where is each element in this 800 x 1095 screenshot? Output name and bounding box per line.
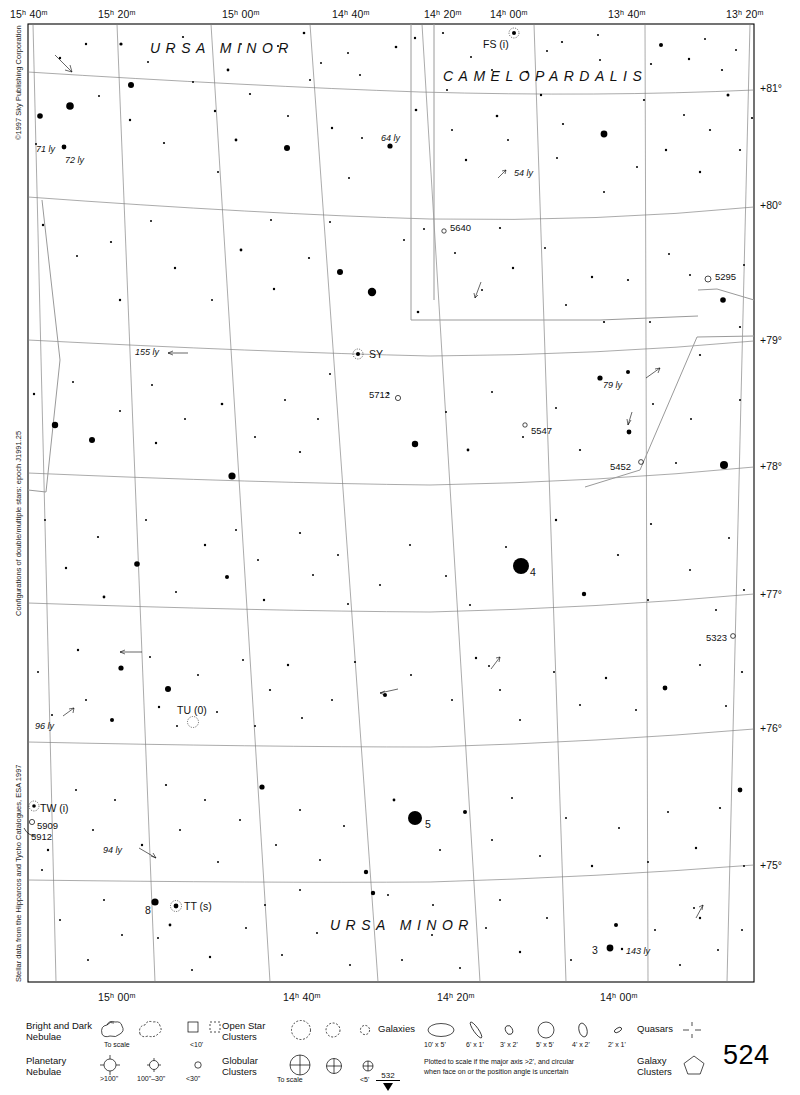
galaxy-4x2-icon [574,1020,592,1040]
double-star-note: Configurations of double/multiple stars:… [14,431,23,616]
legend-globular-clusters-label: Globular Clusters [222,1055,258,1077]
label-flamsteed-5: 5 [425,818,431,830]
label-flamsteed-3: 3 [592,944,598,956]
label-ngc-5712: 5712 [369,389,390,400]
galaxy-size-4x2: 4' x 2' [572,1041,590,1048]
ra-tick-top-2: 15ʰ 00ᵐ [222,8,260,20]
label-ngc-5452: 5452 [610,461,631,472]
bright-dark-nebulae-to-scale-note: To scale [104,1041,130,1048]
copyright-notice: ©1997 Sky Publishing Corporation [14,25,23,140]
label-tu: TU (0) [177,704,207,716]
galaxy-scale-note: Plotted to scale if the major axis >2', … [424,1057,574,1077]
label-ngc-5909: 5909 [37,820,58,831]
galaxy-6x1-icon [466,1018,486,1042]
galaxy-2x1-icon [610,1022,626,1038]
label-tw: TW (i) [40,802,69,814]
dec-tick-78: +78° [760,460,782,472]
ra-tick-bottom-2: 14ʰ 20ᵐ [437,991,475,1003]
galaxy-cluster-icon [682,1054,706,1076]
dec-tick-75: +75° [760,859,782,871]
globular-cluster-medium-icon [322,1055,346,1077]
label-79ly: 79 ly [603,380,622,390]
planetary-nebula-large-icon [98,1054,122,1076]
galaxy-3x2-icon [500,1022,518,1038]
label-155ly: 155 ly [135,347,159,357]
label-96ly: 96 ly [35,721,54,731]
open-cluster-medium-icon [322,1020,344,1040]
globular-cluster-large-icon [286,1053,314,1077]
ra-tick-top-3: 14ʰ 40ᵐ [332,8,370,20]
ra-tick-top-7: 13ʰ 20ᵐ [726,8,764,20]
ra-tick-top-5: 14ʰ 00ᵐ [490,8,528,20]
label-ngc-5323: 5323 [706,632,727,643]
planetary-nebula-medium-icon [144,1056,164,1074]
dec-tick-79: +79° [760,334,782,346]
dec-gridlines [28,72,754,882]
galaxy-size-3x2: 3' x 2' [500,1041,518,1048]
ra-gridlines [33,24,750,982]
galaxy-10x5-icon [424,1020,458,1040]
label-flamsteed-8: 8 [145,904,151,916]
galaxy-5x5-icon [534,1019,558,1041]
chart-frame [28,24,754,982]
label-ngc-5295: 5295 [715,271,736,282]
quasar-icon [681,1020,703,1040]
label-143ly: 143 ly [626,946,650,956]
dec-tick-81: +81° [760,82,782,94]
label-ngc-5912: 5912 [31,831,52,842]
galaxy-size-2x1: 2' x 1' [608,1041,626,1048]
planetary-size-100-30: 100"–30" [137,1075,165,1082]
ra-tick-top-4: 14ʰ 20ᵐ [424,8,462,20]
star-chart-canvas [0,0,800,1010]
constellation-name-ursa-minor-top: URSA MINOR [150,40,294,56]
legend-galaxies-label: Galaxies [378,1023,415,1034]
legend: Bright and Dark Nebulae To scale <10' Pl… [0,1012,800,1095]
dec-tick-80: +80° [760,199,782,211]
page-number: 524 [723,1040,770,1071]
label-94ly: 94 ly [103,845,122,855]
planetary-size-gt100: >100" [100,1075,118,1082]
variable-star-markers [29,28,519,912]
legend-quasars-label: Quasars [637,1023,673,1034]
ra-tick-bottom-3: 14ʰ 00ᵐ [600,991,638,1003]
galaxy-size-6x1: 6' x 1' [466,1041,484,1048]
label-64ly: 64 ly [381,133,400,143]
legend-galaxy-clusters-label: Galaxy Clusters [637,1055,672,1077]
dec-tick-77: +77° [760,588,782,600]
galaxy-size-5x5: 5' x 5' [536,1041,554,1048]
ra-tick-top-0: 15ʰ 40ᵐ [10,8,48,20]
galaxy-markers [24,229,735,836]
legend-bright-dark-nebulae-label: Bright and Dark Nebulae [26,1020,92,1042]
bright-nebula-icon [98,1018,132,1040]
label-ngc-5547: 5547 [531,425,552,436]
globular-to-scale-note: To scale [277,1076,303,1083]
ra-tick-bottom-1: 14ʰ 40ᵐ [283,991,321,1003]
ra-tick-top-6: 13ʰ 40ᵐ [608,8,646,20]
small-nebula-icon [186,1020,200,1034]
ra-tick-bottom-0: 15ʰ 00ᵐ [98,991,136,1003]
dark-nebula-icon [136,1018,170,1040]
label-fs: FS (i) [483,38,509,50]
globular-cluster-small-icon [358,1057,378,1075]
label-flamsteed-4: 4 [530,566,536,578]
open-cluster-large-icon [288,1018,314,1042]
label-ngc-5640: 5640 [450,222,471,233]
label-71ly: 71 ly [36,144,55,154]
legend-planetary-nebulae-label: Planetary Nebulae [26,1055,66,1077]
constellation-name-ursa-minor-bottom: URSA MINOR [330,917,474,933]
proper-motion-arrows [55,55,703,918]
ra-tick-top-1: 15ʰ 20ᵐ [98,8,136,20]
label-72ly: 72 ly [65,155,84,165]
nebula-size-under-10arcmin: <10' [190,1041,203,1048]
planetary-nebula-small-icon [190,1058,206,1072]
planetary-size-lt30: <30" [186,1075,200,1082]
label-sy: SY [369,348,383,360]
globular-size-lt5arcmin: <5' [360,1076,369,1083]
adjacent-chart-number: 532 [376,1071,400,1081]
constellation-name-camelopardalis: CAMELOPARDALIS [443,68,647,84]
galaxy-size-10x5: 10' x 5' [424,1041,446,1048]
label-tt: TT (s) [184,900,212,912]
hipparcos-credit: Stellar data from the Hipparcos and Tych… [14,765,23,983]
adjacent-chart-arrow-icon [382,1082,394,1092]
star-field [32,31,753,971]
